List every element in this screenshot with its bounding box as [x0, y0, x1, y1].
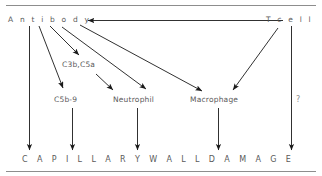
node-macrophage: Macrophage: [190, 95, 238, 105]
arrow-layer: [0, 0, 322, 176]
node-tcell: T c e l l: [266, 15, 313, 25]
node-c5b-9: C5b-9: [54, 95, 77, 105]
edge-antibody-to-neutrophil: [62, 27, 146, 89]
edge-c3b-c5a-to-neutrophil: [96, 74, 113, 90]
node-outcome: C A P I L L A R Y W A L L D A M A G E: [22, 155, 294, 165]
edge-antibody-to-c3b-c5a: [50, 26, 79, 55]
edge-tcell-to-macrophage: [233, 28, 278, 90]
node-neutrophil: Neutrophil: [113, 95, 154, 105]
node-unknown-question-mark: ?: [296, 95, 300, 104]
bottom-rule: [6, 171, 316, 172]
pathway-diagram: A n t i b o d y T c e l l C3b,C5a C5b-9 …: [0, 0, 322, 176]
node-antibody: A n t i b o d y: [8, 15, 91, 25]
edge-antibody-to-macrophage: [80, 25, 202, 91]
node-c3b-c5a: C3b,C5a: [62, 60, 95, 70]
